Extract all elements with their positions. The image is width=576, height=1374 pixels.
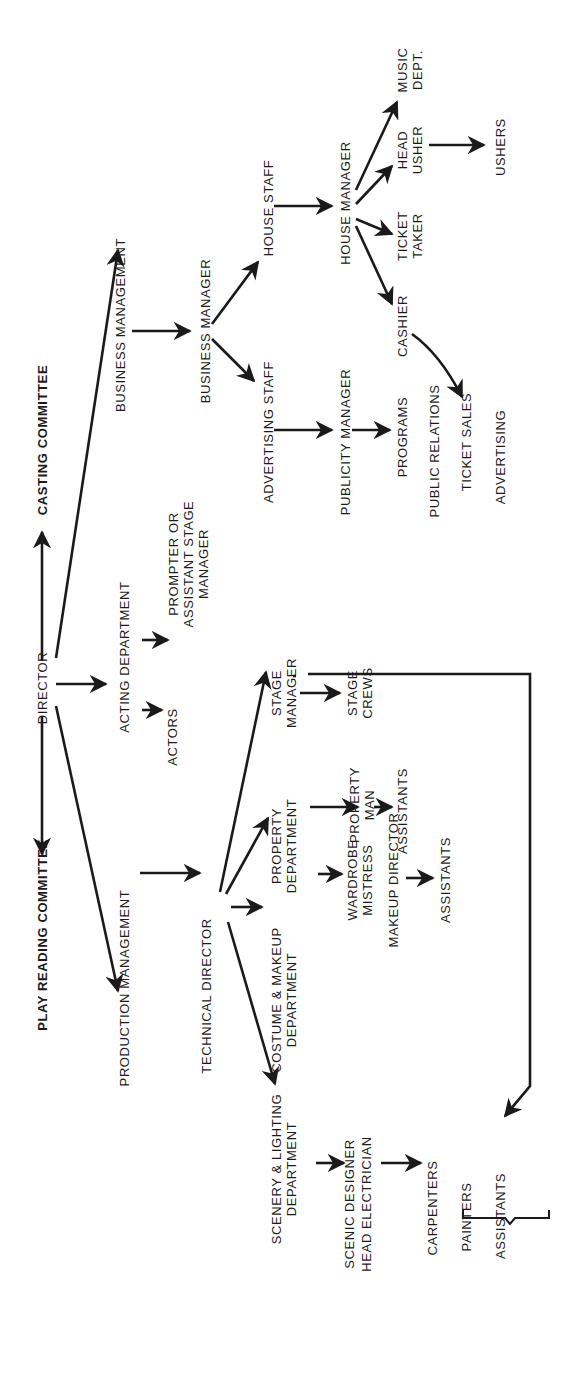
node-prompter: PROMPTER OR ASSISTANT STAGE MANAGER xyxy=(166,501,211,628)
node-publicity-manager: PUBLICITY MANAGER xyxy=(338,369,353,516)
node-ticket-taker: TICKET TAKER xyxy=(395,211,425,261)
node-head-usher: HEAD USHER xyxy=(395,126,425,175)
node-business-manager: BUSINESS MANAGER xyxy=(198,259,213,404)
node-painters: PAINTERS xyxy=(459,1183,474,1252)
node-public-relations: PUBLIC RELATIONS xyxy=(427,385,442,518)
node-makeup-director: MAKEUP DIRECTOR xyxy=(386,813,401,948)
node-stage-manager: STAGE MANAGER xyxy=(269,658,299,728)
node-house-staff: HOUSE STAFF xyxy=(261,160,276,257)
node-scenery-lighting-department: SCENERY & LIGHTING DEPARTMENT xyxy=(269,1094,299,1244)
node-makeup-assistants: ASSISTANTS xyxy=(438,837,453,923)
node-actors: ACTORS xyxy=(165,708,180,766)
node-costume-makeup-department: COSTUME & MAKEUP DEPARTMENT xyxy=(269,927,299,1072)
node-ticket-sales: TICKET SALES xyxy=(459,393,474,492)
node-cashier: CASHIER xyxy=(395,295,410,357)
node-director: DIRECTOR xyxy=(35,652,50,724)
node-business-management: BUSINESS MANAGEMENT xyxy=(113,238,128,412)
node-property-man: PROPERTY MAN xyxy=(347,767,377,843)
node-music-dept: MUSIC DEPT. xyxy=(395,48,425,93)
node-advertising: ADVERTISING xyxy=(493,410,508,505)
node-technical-director: TECHNICAL DIRECTOR xyxy=(199,918,214,1073)
node-acting-department: ACTING DEPARTMENT xyxy=(117,581,132,732)
node-casting-committee: CASTING COMMITTEE xyxy=(35,365,50,515)
node-carpenters: CARPENTERS xyxy=(425,1161,440,1256)
org-chart: PLAY READING COMMITTEE DIRECTOR CASTING … xyxy=(0,0,576,1374)
node-wardrobe-mistress: WARDROBE MISTRESS xyxy=(345,840,375,921)
node-advertising-staff: ADVERTISING STAFF xyxy=(261,361,276,503)
node-scenic-designer: SCENIC DESIGNER xyxy=(342,1139,357,1269)
node-house-manager: HOUSE MANAGER xyxy=(338,141,353,264)
node-crew-assistants: ASSISTANTS xyxy=(493,1173,508,1259)
node-play-reading-committee: PLAY READING COMMITTEE xyxy=(35,839,50,1031)
node-production-management: PRODUCTION MANAGEMENT xyxy=(117,890,132,1087)
node-property-department: PROPERTY DEPARTMENT xyxy=(269,799,299,893)
node-programs: PROGRAMS xyxy=(395,397,410,478)
node-stage-crews: STAGE CREWS xyxy=(345,667,375,718)
node-ushers: USHERS xyxy=(493,118,508,176)
node-head-electrician: HEAD ELECTRICIAN xyxy=(359,1136,374,1271)
